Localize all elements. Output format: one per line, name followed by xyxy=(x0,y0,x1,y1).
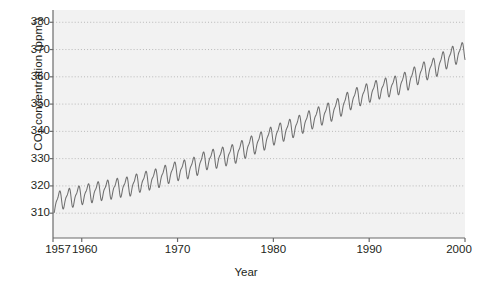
plot-background xyxy=(53,10,465,238)
chart-figure: CO2 concentration (ppm*) 310320330340350… xyxy=(0,0,492,291)
x-tick-label: 1990 xyxy=(356,244,382,256)
x-tick-label: 1957 xyxy=(45,244,71,256)
x-axis-label: Year xyxy=(0,266,492,278)
x-tick-label: 1970 xyxy=(165,244,191,256)
x-tick-label: 1980 xyxy=(261,244,287,256)
x-tick-label: 2000 xyxy=(446,244,472,256)
x-tick-label: 1960 xyxy=(72,244,98,256)
